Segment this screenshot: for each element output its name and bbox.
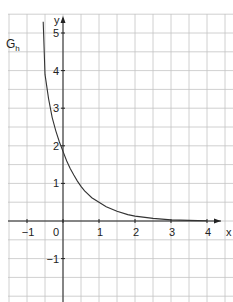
y-axis-arrow-icon — [61, 16, 66, 23]
x-tick-label: 1 — [97, 226, 103, 238]
y-axis-label: y — [54, 14, 60, 26]
y-tick-label: 3 — [53, 102, 59, 114]
y-tick-label: −1 — [46, 253, 59, 265]
x-tick-label: 4 — [205, 226, 211, 238]
function-graph: −101234−112345xy Gh — [0, 0, 233, 302]
x-axis-label: x — [226, 226, 232, 238]
curve-label: Gh — [6, 37, 20, 53]
y-tick-label: 2 — [53, 140, 59, 152]
y-tick-label: 5 — [53, 27, 59, 39]
y-tick-label: 4 — [53, 65, 59, 77]
x-tick-label: −1 — [22, 226, 35, 238]
x-tick-label: 0 — [53, 226, 59, 238]
grid-lines — [8, 14, 233, 302]
x-axis-arrow-icon — [214, 219, 221, 224]
x-tick-label: 3 — [169, 226, 175, 238]
x-tick-label: 2 — [133, 226, 139, 238]
y-tick-label: 1 — [53, 177, 59, 189]
